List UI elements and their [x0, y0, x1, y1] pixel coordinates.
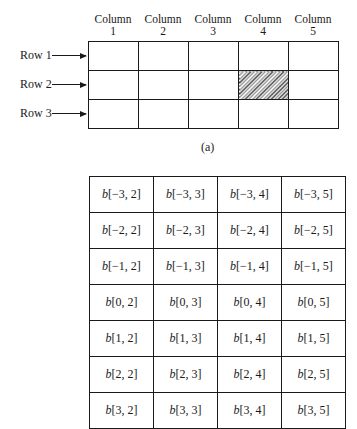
column-label-text: Column [138, 13, 188, 25]
index-subscript: [1, 5] [304, 331, 330, 345]
highlighted-cell-row2-col4 [239, 71, 289, 100]
index-subscript: [−2, 4] [236, 223, 269, 237]
table-cell: b[1, 2] [90, 321, 154, 357]
table-cell: b[−2, 2] [90, 213, 154, 249]
column-label-text: Column [238, 13, 288, 25]
figure-caption-a: (a) [201, 140, 214, 155]
column-label-number: 5 [288, 25, 338, 37]
row-label-1: Row 1 [20, 49, 52, 61]
grid-cell [289, 42, 339, 71]
arrow-right-icon [52, 113, 86, 114]
table-cell: b[−1, 3] [154, 249, 218, 285]
table-cell: b[−1, 5] [282, 249, 346, 285]
grid-cell [189, 100, 239, 129]
index-subscript: [−3, 4] [236, 187, 269, 201]
index-subscript: [−1, 3] [172, 259, 205, 273]
column-label-number: 2 [138, 25, 188, 37]
table-cell: b[−2, 4] [218, 213, 282, 249]
table-cell: b[−2, 5] [282, 213, 346, 249]
table-cell: b[−3, 3] [154, 177, 218, 213]
grid-cell [239, 100, 289, 129]
grid-cell [189, 42, 239, 71]
index-subscript: [0, 5] [304, 295, 330, 309]
table-row: b[1, 2]b[1, 3]b[1, 4]b[1, 5] [90, 321, 346, 357]
column-label-3: Column 3 [188, 13, 238, 37]
table-cell: b[2, 4] [218, 357, 282, 393]
index-subscript: [−1, 4] [236, 259, 269, 273]
grid-cell [239, 42, 289, 71]
index-subscript: [−3, 3] [172, 187, 205, 201]
table-row: b[3, 2]b[3, 3]b[3, 4]b[3, 5] [90, 393, 346, 429]
table-cell: b[0, 3] [154, 285, 218, 321]
index-subscript: [0, 4] [240, 295, 266, 309]
grid-cell [89, 42, 139, 71]
index-subscript: [3, 5] [304, 403, 330, 417]
table-cell: b[−1, 4] [218, 249, 282, 285]
table-cell: b[−2, 3] [154, 213, 218, 249]
column-label-text: Column [88, 13, 138, 25]
index-subscript: [0, 3] [176, 295, 202, 309]
index-subscript: [2, 4] [240, 367, 266, 381]
grid-cell [139, 71, 189, 100]
grid-row-3 [89, 100, 339, 129]
column-label-number: 3 [188, 25, 238, 37]
grid-row-2 [89, 71, 339, 100]
array-index-table-b: b[−3, 2]b[−3, 3]b[−3, 4]b[−3, 5]b[−2, 2]… [89, 176, 346, 429]
index-subscript: [3, 3] [176, 403, 202, 417]
table-cell: b[3, 5] [282, 393, 346, 429]
column-label-5: Column 5 [288, 13, 338, 37]
table-cell: b[1, 4] [218, 321, 282, 357]
index-subscript: [1, 4] [240, 331, 266, 345]
column-label-text: Column [188, 13, 238, 25]
table-cell: b[2, 3] [154, 357, 218, 393]
array-grid-a [88, 41, 339, 129]
table-row: b[0, 2]b[0, 3]b[0, 4]b[0, 5] [90, 285, 346, 321]
row-label-3: Row 3 [20, 107, 52, 119]
column-label-4: Column 4 [238, 13, 288, 37]
arrow-right-icon [52, 84, 86, 85]
column-label-1: Column 1 [88, 13, 138, 37]
column-label-2: Column 2 [138, 13, 188, 37]
index-subscript: [−2, 5] [300, 223, 333, 237]
index-subscript: [2, 3] [176, 367, 202, 381]
grid-cell [139, 42, 189, 71]
grid-cell [139, 100, 189, 129]
grid-cell [289, 71, 339, 100]
index-subscript: [−2, 2] [108, 223, 141, 237]
table-cell: b[0, 5] [282, 285, 346, 321]
index-subscript: [−2, 3] [172, 223, 205, 237]
column-label-number: 1 [88, 25, 138, 37]
column-label-text: Column [288, 13, 338, 25]
table-row: b[−1, 2]b[−1, 3]b[−1, 4]b[−1, 5] [90, 249, 346, 285]
grid-cell [289, 100, 339, 129]
index-subscript: [1, 2] [112, 331, 138, 345]
table-cell: b[−1, 2] [90, 249, 154, 285]
table-cell: b[3, 3] [154, 393, 218, 429]
table-cell: b[−3, 5] [282, 177, 346, 213]
index-subscript: [3, 2] [112, 403, 138, 417]
column-label-number: 4 [238, 25, 288, 37]
table-row: b[2, 2]b[2, 3]b[2, 4]b[2, 5] [90, 357, 346, 393]
table-cell: b[−3, 2] [90, 177, 154, 213]
table-cell: b[−3, 4] [218, 177, 282, 213]
index-subscript: [3, 4] [240, 403, 266, 417]
grid-cell [89, 100, 139, 129]
table-cell: b[0, 2] [90, 285, 154, 321]
index-subscript: [2, 5] [304, 367, 330, 381]
index-subscript: [1, 3] [176, 331, 202, 345]
table-cell: b[1, 3] [154, 321, 218, 357]
index-subscript: [−1, 5] [300, 259, 333, 273]
grid-cell [189, 71, 239, 100]
row-label-2: Row 2 [20, 78, 52, 90]
table-row: b[−3, 2]b[−3, 3]b[−3, 4]b[−3, 5] [90, 177, 346, 213]
table-cell: b[2, 5] [282, 357, 346, 393]
grid-row-1 [89, 42, 339, 71]
index-subscript: [−3, 5] [300, 187, 333, 201]
table-cell: b[1, 5] [282, 321, 346, 357]
table-cell: b[2, 2] [90, 357, 154, 393]
index-subscript: [−3, 2] [108, 187, 141, 201]
table-row: b[−2, 2]b[−2, 3]b[−2, 4]b[−2, 5] [90, 213, 346, 249]
index-subscript: [−1, 2] [108, 259, 141, 273]
table-cell: b[3, 2] [90, 393, 154, 429]
table-cell: b[3, 4] [218, 393, 282, 429]
